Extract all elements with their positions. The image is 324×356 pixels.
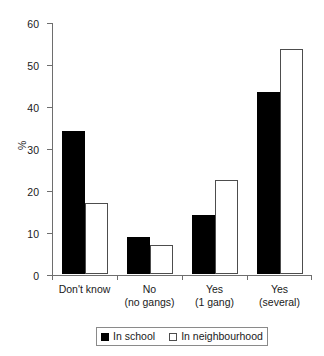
bar-group-yes-1-gang xyxy=(182,22,247,274)
y-tick-label-40: 40 xyxy=(27,102,39,113)
x-category-label-yes-1-gang-line2: (1 gang) xyxy=(182,296,247,309)
chart-legend: In school In neighbourhood xyxy=(96,327,268,346)
x-category-label-yes-several-line1: Yes xyxy=(271,283,288,295)
bar-group-no-gangs xyxy=(117,22,182,274)
x-tick-boundary-4 xyxy=(311,275,312,280)
legend-swatch-open-square-icon xyxy=(169,333,177,341)
x-category-label-dont-know: Don't know xyxy=(52,283,117,296)
legend-item-in-school: In school xyxy=(101,331,155,342)
x-category-label-yes-1-gang-line1: Yes xyxy=(206,283,223,295)
x-tick-boundary-3 xyxy=(247,275,248,280)
legend-swatch-filled-square-icon xyxy=(101,333,109,341)
bar-in-neighbourhood-dont-know xyxy=(85,203,108,274)
plot-area: 0 10 20 30 40 50 60 xyxy=(52,23,312,275)
x-category-label-yes-1-gang: Yes (1 gang) xyxy=(182,283,247,308)
bar-in-school-dont-know xyxy=(62,131,85,274)
legend-label-in-neighbourhood: In neighbourhood xyxy=(181,331,263,342)
x-tick-boundary-1 xyxy=(117,275,118,280)
x-category-label-no-gangs-line1: No xyxy=(143,283,156,295)
y-tick-label-10: 10 xyxy=(27,228,39,239)
y-axis-title: % xyxy=(17,135,28,155)
x-category-label-no-gangs-line2: (no gangs) xyxy=(117,296,182,309)
y-tick-label-20: 20 xyxy=(27,186,39,197)
bar-in-school-no-gangs xyxy=(127,237,150,274)
bar-in-neighbourhood-yes-several xyxy=(280,49,303,274)
bar-in-school-yes-several xyxy=(257,92,280,274)
y-tick-label-0: 0 xyxy=(33,270,39,281)
y-tick-label-50: 50 xyxy=(27,60,39,71)
x-category-label-yes-several-line2: (several) xyxy=(247,296,312,309)
bar-in-neighbourhood-no-gangs xyxy=(150,245,173,274)
legend-item-in-neighbourhood: In neighbourhood xyxy=(169,331,263,342)
x-tick-boundary-2 xyxy=(182,275,183,280)
bar-group-yes-several xyxy=(247,22,312,274)
bar-in-neighbourhood-yes-1-gang xyxy=(215,180,238,275)
legend-label-in-school: In school xyxy=(113,331,155,342)
bar-group-dont-know xyxy=(52,22,117,274)
x-category-label-no-gangs: No (no gangs) xyxy=(117,283,182,308)
y-tick-label-60: 60 xyxy=(27,18,39,29)
bar-chart-figure: % 0 10 20 30 40 50 60 xyxy=(0,0,324,356)
bar-in-school-yes-1-gang xyxy=(192,215,215,274)
x-category-label-yes-several: Yes (several) xyxy=(247,283,312,308)
x-tick-boundary-0 xyxy=(52,275,53,280)
y-tick-label-30: 30 xyxy=(27,144,39,155)
x-category-label-dont-know-line1: Don't know xyxy=(59,283,111,295)
